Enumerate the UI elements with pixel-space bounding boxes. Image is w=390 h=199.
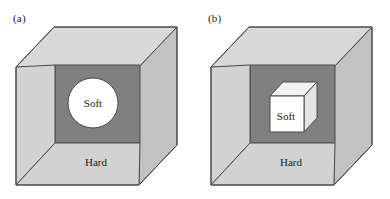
panel-a: (a) Soft Hard bbox=[0, 0, 195, 199]
panel-a-cube-diagram: Soft Hard bbox=[0, 0, 195, 199]
soft-inclusion-label: Soft bbox=[84, 97, 102, 109]
soft-inclusion-label: Soft bbox=[277, 110, 295, 122]
panel-b: (b) Soft Hard bbox=[195, 0, 390, 199]
hard-matrix-label: Hard bbox=[280, 156, 302, 168]
panel-b-cube-diagram: Soft Hard bbox=[195, 0, 390, 199]
hard-matrix-label: Hard bbox=[85, 156, 107, 168]
figure-container: (a) Soft Hard (b) bbox=[0, 0, 390, 199]
